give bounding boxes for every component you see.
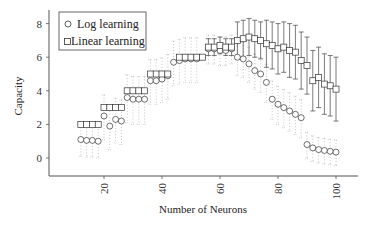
linear-learning-point (333, 86, 339, 92)
linear-learning-point (287, 47, 293, 53)
linear-learning-point (298, 58, 304, 64)
linear-learning-point (292, 49, 298, 55)
x-tick-label: 40 (156, 183, 168, 195)
linear-learning-point (78, 121, 84, 127)
linear-learning-point (240, 36, 246, 42)
linear-learning-point (113, 105, 119, 111)
linear-learning-point (130, 88, 136, 94)
linear-learning-point (101, 105, 107, 111)
y-tick-label: 2 (37, 118, 43, 130)
log-learning-point (258, 71, 264, 77)
log-learning-point (89, 137, 95, 143)
linear-learning-point (89, 121, 95, 127)
log-learning-point (287, 108, 293, 114)
log-learning-point (316, 147, 322, 153)
linear-learning-point (229, 44, 235, 50)
linear-learning-point (281, 44, 287, 50)
log-learning-point (113, 116, 119, 122)
log-learning-point (333, 149, 339, 155)
linear-learning-point (269, 42, 275, 48)
log-learning-point (136, 96, 142, 102)
log-learning-point (281, 105, 287, 111)
linear-learning-point (258, 37, 264, 43)
linear-learning-point (223, 44, 229, 50)
log-learning-point (263, 79, 269, 85)
linear-learning-point (252, 36, 258, 42)
log-learning-point (147, 78, 153, 84)
linear-learning-point (246, 34, 252, 40)
linear-learning-point (182, 54, 188, 60)
linear-learning-point (147, 71, 153, 77)
linear-learning-point (107, 105, 113, 111)
legend: Log learning Linear learning (59, 12, 146, 50)
log-learning-point (252, 68, 258, 74)
log-learning-point (321, 147, 327, 153)
log-learning-point (78, 137, 84, 143)
linear-learning-point (142, 88, 148, 94)
x-tick-label: 100 (330, 183, 342, 200)
linear-learning-point (124, 88, 130, 94)
linear-learning-point (194, 54, 200, 60)
log-learning-point (101, 113, 107, 119)
log-learning-point (95, 138, 101, 144)
linear-learning-point (159, 71, 165, 77)
linear-learning-point (217, 42, 223, 48)
y-tick-label: 4 (37, 85, 43, 97)
linear-learning-point (327, 83, 333, 89)
log-learning-point (304, 142, 310, 148)
log-learning-point (142, 96, 148, 102)
linear-learning-point (304, 63, 310, 69)
linear-learning-point (263, 41, 269, 47)
log-learning-point (124, 95, 130, 101)
log-learning-point (275, 101, 281, 107)
y-tick-label: 8 (37, 18, 43, 30)
linear-learning-point (205, 44, 211, 50)
log-learning-point (118, 118, 124, 124)
log-learning-point (310, 145, 316, 151)
linear-learning-point (136, 88, 142, 94)
linear-learning-point (200, 54, 206, 60)
x-tick-label: 20 (98, 183, 110, 195)
y-axis-label: Capacity (12, 76, 24, 116)
log-learning-point (292, 111, 298, 117)
linear-learning-point (275, 46, 281, 52)
y-ticks: 02468 (37, 18, 50, 164)
log-learning-point (84, 137, 90, 143)
x-tick-label: 60 (214, 183, 226, 195)
linear-learning-point (176, 54, 182, 60)
linear-learning-point (95, 121, 101, 127)
log-learning-point (327, 148, 333, 154)
log-learning-point (240, 56, 246, 62)
x-ticks: 20406080100 (98, 176, 342, 200)
log-learning-point (153, 78, 159, 84)
legend-label-linear: Linear learning (71, 34, 145, 48)
log-learning-point (171, 59, 177, 65)
x-axis-label: Number of Neurons (159, 203, 247, 215)
log-learning-point (107, 123, 113, 129)
log-learning-point (298, 115, 304, 121)
log-learning-point (130, 96, 136, 102)
y-tick-label: 6 (37, 51, 43, 63)
linear-learning-point (153, 71, 159, 77)
linear-learning-point (84, 121, 90, 127)
linear-learning-point (118, 105, 124, 111)
log-learning-point (246, 61, 252, 67)
linear-learning-point (310, 78, 316, 84)
legend-label-log: Log learning (77, 17, 139, 31)
linear-learning-point (165, 71, 171, 77)
log-learning-point (269, 96, 275, 102)
linear-learning-point (321, 81, 327, 87)
chart: 02468 20406080100 Number of Neurons Capa… (0, 0, 374, 226)
y-tick-label: 0 (37, 152, 43, 164)
log-learning-point (234, 54, 240, 60)
linear-learning-point (316, 74, 322, 80)
linear-learning-point (234, 37, 240, 43)
x-tick-label: 80 (272, 183, 284, 195)
linear-learning-point (188, 54, 194, 60)
linear-learning-point (211, 44, 217, 50)
